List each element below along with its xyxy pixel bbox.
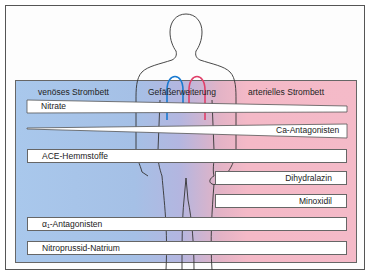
drug-label-ca-antagonists: Ca-Antagonisten	[276, 125, 339, 135]
drug-bar-minoxidil: Minoxidil	[215, 194, 347, 208]
drug-bar-ace-inhibitors: ACE-Hemmstoffe	[27, 149, 347, 163]
drug-bar-alpha1-antagonists: α₁-Antagonisten	[27, 217, 347, 231]
artery-loop-icon	[189, 77, 205, 121]
venous-bed-label: venöses Strombett	[38, 87, 109, 97]
drug-label-alpha1-antagonists: α₁-Antagonisten	[42, 219, 102, 229]
drug-label-nitrate: Nitrate	[41, 101, 66, 111]
body-silhouette-icon	[0, 0, 372, 276]
drug-label-minoxidil: Minoxidil	[299, 196, 332, 206]
vein-loop-icon	[167, 77, 183, 121]
drug-label-dihydralazine: Dihydralazin	[285, 173, 332, 183]
drug-bar-nitroprusside: Nitroprussid-Natrium	[27, 241, 347, 255]
arterial-bed-label: arterielles Strombett	[248, 87, 324, 97]
vasodilation-label: Gefäßerweiterung	[148, 87, 216, 97]
drug-bar-dihydralazine: Dihydralazin	[215, 171, 347, 185]
drug-label-ace-inhibitors: ACE-Hemmstoffe	[42, 151, 108, 161]
nitrate-wedge	[27, 100, 347, 113]
drug-label-nitroprusside: Nitroprussid-Natrium	[42, 243, 120, 253]
